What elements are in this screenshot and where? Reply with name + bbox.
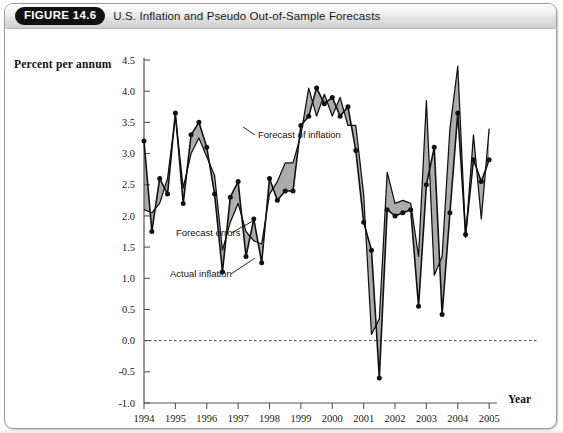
y-axis-ticks: -1.0-0.50.00.51.01.52.02.53.03.54.04.5 (118, 55, 150, 409)
figure-number-badge: FIGURE 14.6 (15, 7, 105, 24)
figure-title: U.S. Inflation and Pseudo Out-of-Sample … (113, 10, 380, 22)
svg-text:2005: 2005 (479, 413, 500, 424)
svg-text:4.0: 4.0 (122, 86, 135, 97)
y-axis-label: Percent per annum (14, 58, 112, 70)
svg-text:0.5: 0.5 (122, 304, 135, 315)
x-axis-label: Year (508, 393, 531, 405)
figure-container: FIGURE 14.6 U.S. Inflation and Pseudo Ou… (0, 0, 563, 433)
svg-text:1994: 1994 (134, 413, 156, 424)
svg-text:2001: 2001 (353, 413, 374, 424)
svg-text:1997: 1997 (228, 413, 249, 424)
svg-text:Forecast of inflation: Forecast of inflation (258, 129, 341, 140)
page-edge-shadow (0, 429, 563, 433)
svg-text:-1.0: -1.0 (118, 398, 135, 409)
svg-text:1995: 1995 (165, 413, 186, 424)
svg-text:4.5: 4.5 (122, 55, 135, 66)
svg-text:3.0: 3.0 (122, 148, 135, 159)
svg-text:1996: 1996 (196, 413, 217, 424)
svg-text:2004: 2004 (447, 413, 469, 424)
chart-annotations: Forecast of inflationForecast errorsActu… (170, 127, 341, 279)
figure-header: FIGURE 14.6 U.S. Inflation and Pseudo Ou… (5, 4, 556, 29)
x-axis-ticks: 1994199519961997199819992000200120022003… (134, 403, 500, 424)
svg-text:1.0: 1.0 (122, 273, 135, 284)
svg-text:2.0: 2.0 (122, 211, 135, 222)
svg-text:2000: 2000 (322, 413, 343, 424)
svg-text:2003: 2003 (416, 413, 437, 424)
plot-area: Percent per annum Year -1.0-0.50.00.51.0… (0, 30, 563, 433)
svg-text:2.5: 2.5 (122, 179, 135, 190)
svg-text:Actual inflation: Actual inflation (170, 268, 232, 279)
svg-text:2002: 2002 (385, 413, 406, 424)
svg-text:3.5: 3.5 (122, 117, 135, 128)
svg-text:0.0: 0.0 (122, 335, 135, 346)
svg-text:Forecast errors: Forecast errors (176, 227, 241, 238)
svg-text:1999: 1999 (290, 413, 311, 424)
svg-text:1998: 1998 (259, 413, 280, 424)
svg-text:-0.5: -0.5 (118, 366, 135, 377)
svg-text:1.5: 1.5 (122, 242, 135, 253)
inflation-forecast-chart: -1.0-0.50.00.51.01.52.02.53.03.54.04.5 1… (0, 30, 563, 433)
